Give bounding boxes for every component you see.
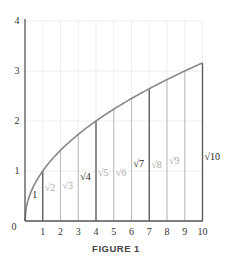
x-tick-label: 5: [111, 226, 116, 237]
segment-label: √7: [134, 158, 145, 169]
vertical-segments: [43, 63, 203, 221]
x-tick-label: 7: [147, 226, 152, 237]
x-tick-label: 3: [76, 226, 81, 237]
x-tick-label: 1: [40, 226, 45, 237]
y-tick-labels: 01234: [12, 15, 20, 232]
segment-label: √3: [63, 180, 74, 191]
y-tick-label: 3: [15, 65, 20, 76]
x-tick-label: 9: [182, 226, 187, 237]
sqrt-function-figure: 12345678910 01234 1√2√3√4√5√6√7√8√9√10 F…: [0, 0, 233, 266]
y-tick-label: 1: [15, 165, 20, 176]
segment-label: √6: [116, 167, 127, 178]
segment-label: √9: [169, 155, 180, 166]
y-tick-label: 4: [15, 15, 20, 26]
x-tick-label: 4: [94, 226, 99, 237]
segment-label: √2: [45, 182, 56, 193]
x-tick-label: 6: [129, 226, 134, 237]
y-tick-label: 0: [12, 221, 17, 232]
segment-label: √4: [80, 171, 91, 182]
x-tick-labels: 12345678910: [40, 226, 207, 237]
segment-label: √8: [151, 159, 162, 170]
segment-label: √5: [98, 167, 109, 178]
figure-caption: FIGURE 1: [92, 243, 140, 254]
segment-label: √10: [205, 151, 221, 162]
x-tick-label: 10: [198, 226, 208, 237]
y-tick-label: 2: [15, 115, 20, 126]
segment-label: 1: [32, 189, 37, 200]
x-tick-label: 8: [165, 226, 170, 237]
x-tick-label: 2: [58, 226, 63, 237]
